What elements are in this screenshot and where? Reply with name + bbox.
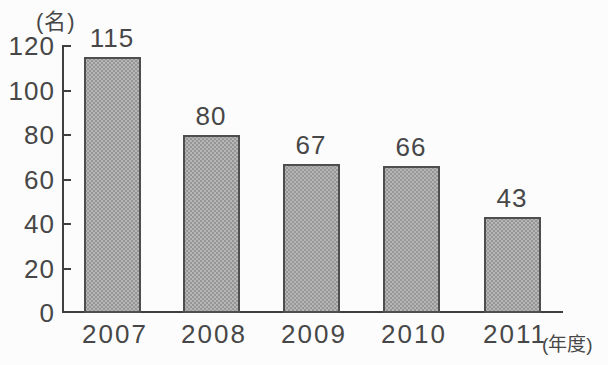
bar-value-label: 80: [161, 103, 261, 129]
y-tick-label: 0: [5, 300, 55, 326]
y-tick-label: 40: [5, 211, 55, 237]
bar-chart: (名) 020406080100120 11520078020086720096…: [0, 0, 608, 365]
bar-2007: [84, 57, 141, 313]
y-tick-mark: [64, 223, 71, 225]
bar-value-label: 115: [62, 25, 162, 51]
bar-2009: [283, 164, 340, 313]
bar-2008: [183, 135, 240, 313]
x-axis-unit-label: (年度): [542, 329, 593, 356]
y-tick-label: 20: [5, 256, 55, 282]
y-tick-mark: [64, 268, 71, 270]
bar-2010: [383, 166, 440, 313]
y-tick-label: 120: [5, 33, 55, 59]
y-tick-mark: [64, 90, 71, 92]
bar-2011: [484, 217, 541, 313]
bar-value-label: 66: [361, 134, 461, 160]
y-tick-mark: [64, 179, 71, 181]
y-tick-mark: [64, 134, 71, 136]
bar-value-label: 67: [261, 132, 361, 158]
y-tick-label: 60: [5, 167, 55, 193]
y-tick-label: 80: [5, 122, 55, 148]
bar-value-label: 43: [462, 185, 562, 211]
y-tick-label: 100: [5, 78, 55, 104]
